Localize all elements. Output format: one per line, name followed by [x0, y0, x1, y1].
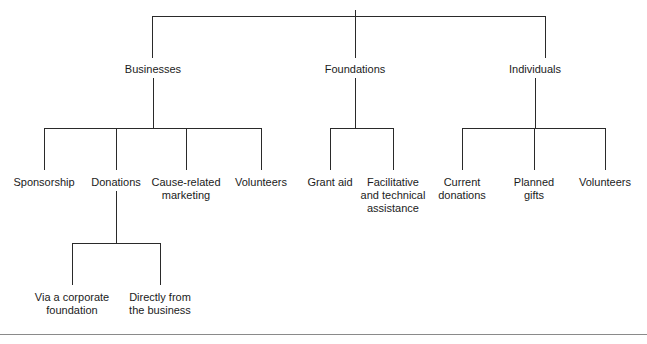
node-businesses: Businesses: [83, 63, 223, 76]
node-cause-related-marketing: Cause-related marketing: [146, 176, 226, 202]
businesses-stem-connector: [153, 78, 154, 128]
businesses-drop-sponsorship: [44, 128, 45, 170]
root-horizontal-bar: [152, 16, 546, 17]
node-facilitative-and-technical-assistance: Facilitative and technical assistance: [350, 176, 436, 215]
foundations-drop-facilitative-assistance: [393, 128, 394, 170]
node-volunteers-individual: Volunteers: [569, 176, 641, 189]
individuals-drop-volunteers: [605, 128, 606, 170]
node-individuals: Individuals: [465, 63, 605, 76]
foundations-drop-grant-aid: [330, 128, 331, 170]
node-sponsorship: Sponsorship: [4, 176, 84, 189]
node-planned-gifts: Planned gifts: [499, 176, 569, 202]
donations-horizontal-bar: [72, 243, 161, 244]
foundations-stem-connector: [355, 78, 356, 128]
individuals-drop-planned-gifts: [534, 128, 535, 170]
businesses-drop-volunteers: [261, 128, 262, 170]
donations-drop-directly-from-business: [160, 243, 161, 285]
node-via-a-corporate-foundation: Via a corporate foundation: [22, 291, 122, 317]
node-foundations: Foundations: [285, 63, 425, 76]
donations-drop-via-corporate-foundation: [72, 243, 73, 285]
root-drop-individuals: [545, 16, 546, 58]
businesses-drop-donations: [116, 128, 117, 170]
footer-divider-rule: [0, 334, 647, 335]
node-current-donations: Current donations: [427, 176, 497, 202]
root-drop-foundations: [355, 16, 356, 58]
foundations-horizontal-bar: [330, 128, 394, 129]
individuals-drop-current-donations: [462, 128, 463, 170]
node-volunteers-business: Volunteers: [226, 176, 296, 189]
individuals-stem-connector: [535, 78, 536, 128]
node-directly-from-the-business: Directly from the business: [115, 291, 205, 317]
root-drop-businesses: [152, 16, 153, 58]
node-donations: Donations: [81, 176, 151, 189]
businesses-drop-cause-related-marketing: [186, 128, 187, 170]
organization-chart: Businesses Foundations Individuals Spons…: [0, 0, 647, 344]
businesses-horizontal-bar: [44, 128, 262, 129]
donations-stem-connector: [116, 191, 117, 243]
